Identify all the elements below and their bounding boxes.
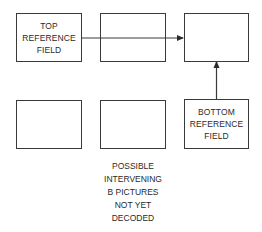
box-label: FIELD xyxy=(37,44,62,56)
target-field-box xyxy=(184,13,249,62)
top-middle-box xyxy=(100,13,166,62)
bottom-left-box xyxy=(16,100,82,149)
box-label: TOP xyxy=(40,20,58,32)
box-label: REFERENCE xyxy=(22,32,75,44)
caption-line: POSSIBLE xyxy=(100,160,166,173)
bottom-reference-field-box: BOTTOM REFERENCE FIELD xyxy=(184,99,249,149)
box-label: BOTTOM xyxy=(198,106,235,118)
caption-line: NOT YET xyxy=(100,199,166,212)
box-label: REFERENCE xyxy=(190,118,243,130)
b-pictures-caption: POSSIBLE INTERVENING B PICTURES NOT YET … xyxy=(100,160,166,225)
caption-line: DECODED xyxy=(100,212,166,225)
top-reference-field-box: TOP REFERENCE FIELD xyxy=(16,13,82,62)
box-label: FIELD xyxy=(204,130,229,142)
caption-line: INTERVENING xyxy=(100,173,166,186)
bottom-middle-box xyxy=(100,100,166,149)
caption-line: B PICTURES xyxy=(100,186,166,199)
